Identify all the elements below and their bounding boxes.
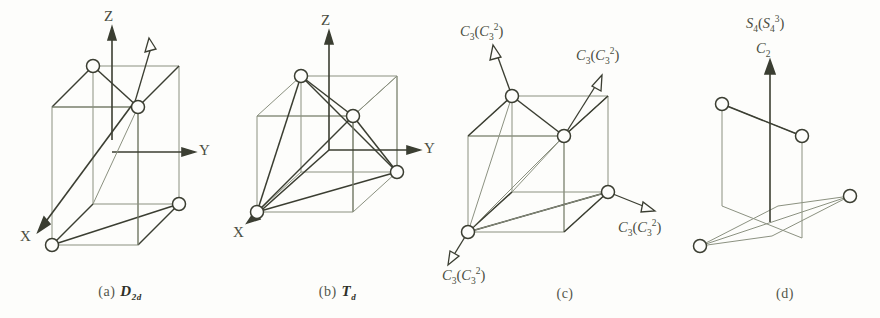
op-sub: 2 <box>766 49 771 59</box>
op-inner-main: C <box>637 219 647 235</box>
symbol-letter: D <box>120 283 131 299</box>
axis-label-z: Z <box>104 8 113 25</box>
secondary-axis-arrow <box>134 38 156 105</box>
op-inner-sub: 4 <box>770 24 775 34</box>
op-inner-main: C <box>595 47 605 63</box>
box-edges-light-2 <box>52 107 138 245</box>
caption-d-index: (d) <box>776 286 794 301</box>
panel-b-drawing <box>225 0 450 300</box>
op-main: C <box>618 219 628 235</box>
atom-circle <box>716 98 729 111</box>
op-inner-sub: 3 <box>647 228 652 238</box>
caption-c: (c) <box>440 286 690 302</box>
op-inner-sub: 3 <box>489 32 494 42</box>
c3-label-bottom-right: C3(C32) <box>618 218 661 238</box>
symbol-sub: d <box>351 292 356 302</box>
c2-label: C2 <box>756 40 770 59</box>
symbol-letter: T <box>342 283 352 299</box>
panel-c3-axes: C3(C32) C3(C32) C3(C32) C3(C32) (c) <box>440 0 690 318</box>
internal-diagonal <box>93 107 138 204</box>
op-main: C <box>460 23 470 39</box>
atom-circle <box>46 239 59 252</box>
atom-circle <box>694 240 707 253</box>
c3-label-top-left: C3(C32) <box>460 22 503 42</box>
atom-circle <box>844 190 857 203</box>
op-inner-main: C <box>479 23 489 39</box>
atom-circle <box>87 60 100 73</box>
c3-label-top-right: C3(C32) <box>576 46 619 66</box>
axis-c2 <box>765 60 775 222</box>
caption-d: (d) <box>690 286 880 302</box>
c3-arrow-top-right <box>564 75 602 136</box>
op-main: C <box>442 267 452 283</box>
atom-circle <box>796 130 809 143</box>
c3-label-bottom-left: C3(C32) <box>442 266 485 286</box>
atom-circle <box>132 101 145 114</box>
atom-circle <box>251 206 264 219</box>
atom-circle <box>391 166 404 179</box>
op-main: C <box>576 47 586 63</box>
caption-a-index: (a) <box>98 284 115 299</box>
symbol-sub: 2d <box>132 292 142 302</box>
symmetry-figure: Z Y X (a)D2d <box>0 0 880 318</box>
axis-label-z: Z <box>321 12 330 29</box>
atom-circle <box>462 226 475 239</box>
caption-b-symbol: Td <box>342 283 357 299</box>
atoms <box>694 98 857 253</box>
caption-c-index: (c) <box>556 286 573 301</box>
axis-label-y: Y <box>424 140 435 157</box>
panel-d2d: Z Y X (a)D2d <box>0 0 240 318</box>
axis-z <box>325 31 333 150</box>
caption-b: (b)Td <box>225 283 450 302</box>
plane-vertical <box>722 104 802 238</box>
atom-circle <box>602 186 615 199</box>
axis-y <box>112 148 195 156</box>
atom-circle <box>347 110 360 123</box>
molecule-bonds <box>722 104 802 136</box>
panel-s4-c2: S4(S43) C2 (d) <box>690 0 880 318</box>
s4-label: S4(S43) <box>746 14 784 34</box>
atom-circle <box>558 130 571 143</box>
caption-a: (a)D2d <box>0 283 240 302</box>
panel-d-drawing <box>690 0 880 300</box>
axis-label-x: X <box>20 228 31 245</box>
caption-b-index: (b) <box>319 284 337 299</box>
c3-arrow-top-left <box>490 45 512 96</box>
op-inner-main: C <box>461 267 471 283</box>
axis-y <box>329 146 420 154</box>
axis-label-y: Y <box>199 142 210 159</box>
c3-arrow-bottom-right <box>608 192 655 212</box>
atom-circle <box>295 70 308 83</box>
op-inner-sub: 3 <box>605 56 610 66</box>
op-inner-sub: 3 <box>471 276 476 286</box>
panel-c-drawing <box>440 0 690 300</box>
atom-circle <box>506 90 519 103</box>
panel-td: Z Y X (b)Td <box>225 0 450 318</box>
op-main: C <box>756 40 766 56</box>
axis-label-x: X <box>233 224 244 241</box>
op-inner-main: S <box>763 15 770 31</box>
caption-a-symbol: D2d <box>120 283 141 299</box>
atom-circle <box>173 198 186 211</box>
axis-z <box>108 27 116 140</box>
